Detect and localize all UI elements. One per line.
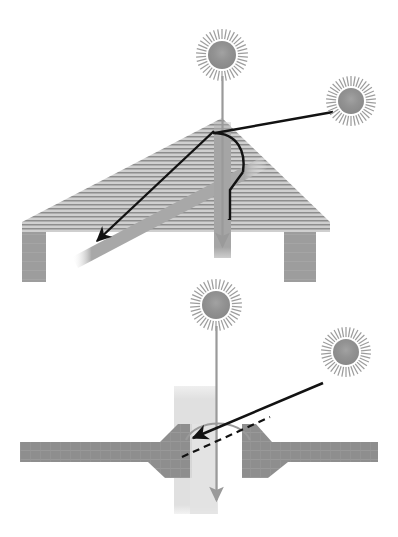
street-trench-incidence-panel (20, 279, 378, 514)
solar-incidence-figure (0, 0, 398, 537)
zenith-sun (196, 29, 248, 81)
roof-vertical-beam (214, 76, 231, 258)
roof-left-pillar (22, 232, 46, 282)
zenith-sun-disk (202, 291, 230, 319)
oblique-sun-disk (333, 339, 359, 365)
figure-canvas (0, 0, 398, 537)
roof-right-pillar (284, 232, 316, 282)
zenith-sun (190, 279, 242, 331)
roof-oblique-incident-ray (215, 112, 333, 133)
oblique-sun-disk (338, 88, 364, 114)
oblique-sun (326, 76, 376, 126)
trench-right-ground (242, 424, 378, 478)
pitched-roof-incidence-panel (22, 29, 376, 282)
zenith-sun-disk (208, 41, 236, 69)
trench-left-ground (20, 424, 192, 478)
roof-structure (22, 118, 330, 282)
oblique-sun (321, 327, 371, 377)
